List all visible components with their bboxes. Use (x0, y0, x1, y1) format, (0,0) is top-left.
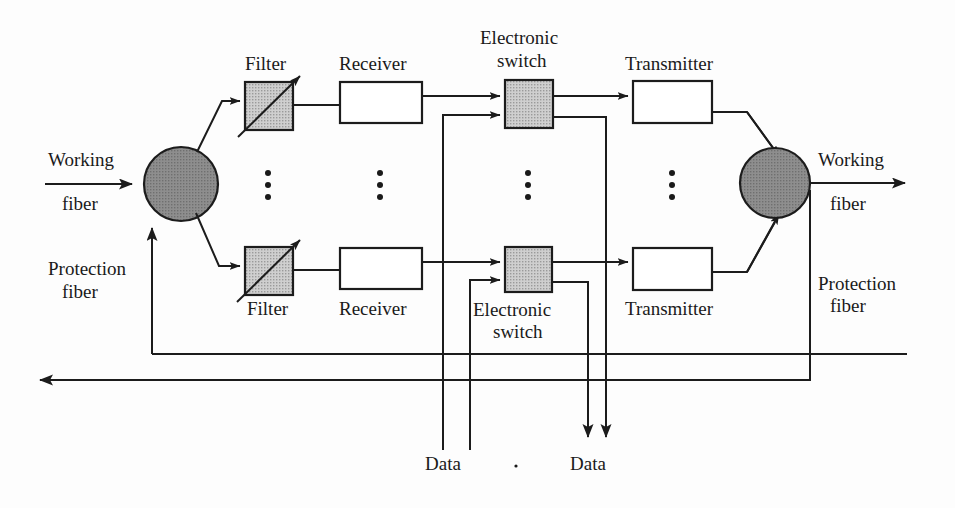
filter-top-label: Filter (245, 53, 287, 74)
electronic-switch-top-label-line2: switch (497, 50, 547, 71)
filter-bottom-label: Filter (247, 298, 289, 319)
working-fiber-output-group: Working fiber (810, 149, 905, 214)
electronic-switch-top-group[interactable]: Electronic switch (480, 27, 558, 128)
working-fiber-output-label-line2: fiber (830, 193, 867, 214)
network-diagram: Working fiber Protection fiber Filter Re… (0, 0, 955, 508)
transmitter-bottom-to-combiner-link (712, 222, 775, 272)
transmitter-bottom-group[interactable]: Transmitter (625, 248, 714, 319)
receiver-bottom-box[interactable] (340, 248, 422, 289)
protection-fiber-output-label-line2: fiber (830, 295, 867, 316)
working-fiber-input-label-line1: Working (48, 149, 115, 170)
working-fiber-input-group: Working fiber (45, 149, 132, 214)
transmitter-bottom-box[interactable] (633, 248, 712, 290)
working-fiber-input-label-line2: fiber (62, 193, 99, 214)
electronic-switch-bottom-label-line1: Electronic (473, 299, 551, 320)
protection-fiber-input-label-line1: Protection (48, 258, 127, 279)
receiver-bottom-group[interactable]: Receiver (339, 248, 422, 319)
protection-fiber-input-label-line2: fiber (62, 281, 99, 302)
electronic-switch-bottom-label-line2: switch (493, 321, 543, 342)
diagram-page: Working fiber Protection fiber Filter Re… (0, 0, 955, 508)
receiver-bottom-label: Receiver (339, 298, 407, 319)
electronic-switch-top-label-line1: Electronic (480, 27, 558, 48)
transmitter-bottom-label: Transmitter (625, 298, 714, 319)
ellipsis-filters (265, 170, 271, 200)
transmitter-top-label: Transmitter (625, 53, 714, 74)
filter-bottom-group[interactable]: Filter (237, 240, 300, 319)
electronic-switch-bottom-box[interactable] (505, 247, 552, 292)
splitter-to-filter-bottom-link (196, 213, 236, 266)
data-out-label: Data (570, 453, 606, 474)
ellipsis-switches (525, 170, 531, 200)
receiver-top-group[interactable]: Receiver (339, 53, 422, 123)
transmitter-top-box[interactable] (633, 81, 712, 123)
splitter-to-filter-top-link (197, 101, 236, 152)
data-in-label: Data (425, 453, 461, 474)
receiver-top-label: Receiver (339, 53, 407, 74)
electronic-switch-top-box[interactable] (505, 80, 553, 128)
receiver-top-box[interactable] (340, 82, 422, 123)
filter-top-group[interactable]: Filter (238, 53, 300, 137)
data-in-to-switch-top-wire (443, 115, 500, 450)
working-fiber-output-label-line1: Working (818, 149, 885, 170)
transmitter-top-group[interactable]: Transmitter (625, 53, 714, 123)
optical-combiner-right[interactable] (740, 148, 810, 218)
ellipsis-transmitters (669, 170, 675, 200)
switch-bottom-to-data-out-wire (552, 282, 588, 437)
transmitter-top-to-combiner-link (712, 112, 773, 148)
optical-splitter-left[interactable] (144, 147, 218, 221)
protection-fiber-output-label-line1: Protection (818, 273, 897, 294)
ellipsis-receivers (377, 170, 383, 200)
switch-top-to-data-out-wire (553, 117, 606, 437)
center-separator-dot (514, 464, 517, 467)
protection-fiber-input-group: Protection fiber (48, 228, 152, 354)
transmitter-bottom-to-combiner-arrow (747, 214, 779, 272)
